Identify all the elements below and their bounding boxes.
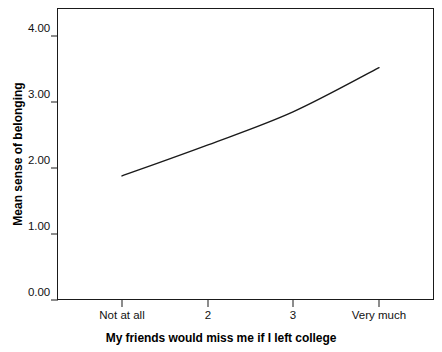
y-tick-label: 0.00 — [28, 286, 50, 298]
y-tick-label: 1.00 — [28, 220, 50, 232]
x-tick-mark — [293, 300, 294, 307]
y-tick-mark — [51, 168, 58, 169]
y-tick-label: 2.00 — [28, 154, 50, 166]
x-tick-label: 2 — [205, 309, 211, 321]
y-tick-mark — [51, 36, 58, 37]
x-tick-mark — [122, 300, 123, 307]
x-axis-title: My friends would miss me if I left colle… — [0, 331, 442, 345]
y-tick-mark — [51, 234, 58, 235]
y-tick-mark — [51, 300, 58, 301]
y-axis-title: Mean sense of belonging — [9, 8, 27, 300]
y-tick-mark — [51, 102, 58, 103]
y-tick-label: 3.00 — [28, 88, 50, 100]
y-tick-label: 4.00 — [28, 22, 50, 34]
x-tick-mark — [208, 300, 209, 307]
x-tick-label: 3 — [290, 309, 296, 321]
chart-figure: 4.00 3.00 2.00 1.00 0.00 Not at all 2 3 … — [0, 0, 442, 352]
x-tick-label: Very much — [352, 309, 406, 321]
data-line-mean-sense-of-belonging — [122, 68, 379, 176]
line-series-layer — [57, 8, 434, 300]
x-tick-label: Not at all — [99, 309, 144, 321]
x-tick-mark — [379, 300, 380, 307]
